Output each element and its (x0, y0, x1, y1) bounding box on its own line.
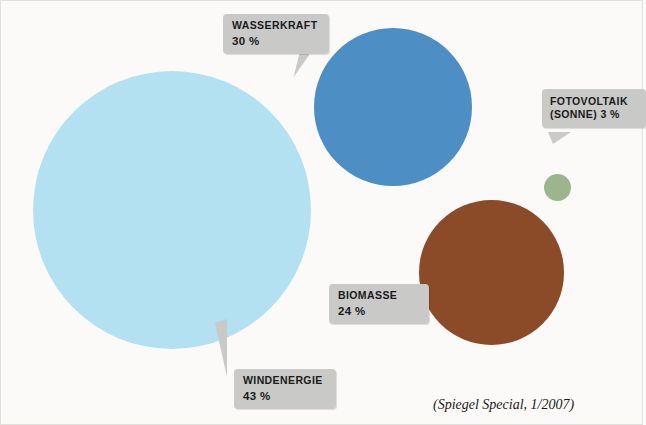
callout-label-fotovoltaik-sonne: (SONNE) (550, 108, 597, 120)
callout-value-windenergie: 43 % (243, 389, 327, 403)
callout-windenergie: WINDENERGIE 43 % (234, 369, 336, 409)
bubble-fotovoltaik (544, 174, 571, 201)
callout-label-fotovoltaik-line2: (SONNE) 3 % (550, 108, 638, 121)
callout-value-fotovoltaik: 3 % (600, 108, 619, 120)
callout-value-biomasse: 24 % (338, 304, 420, 318)
bubble-wasserkraft (314, 28, 472, 186)
callout-biomasse: BIOMASSE 24 % (329, 284, 429, 324)
callout-label-biomasse: BIOMASSE (338, 289, 420, 302)
callout-fotovoltaik: FOTOVOLTAIK (SONNE) 3 % (542, 89, 646, 128)
callout-label-fotovoltaik-line1: FOTOVOLTAIK (550, 95, 638, 108)
source-note: (Spiegel Special, 1/2007) (433, 397, 574, 413)
bubble-windenergie (33, 71, 311, 349)
callout-label-wasserkraft: WASSERKRAFT (232, 19, 320, 32)
callout-tail-windenergie (215, 319, 227, 377)
callout-wasserkraft: WASSERKRAFT 30 % (223, 14, 329, 54)
callout-tail-fotovoltaik (548, 132, 571, 144)
bubble-biomasse (419, 200, 564, 345)
callout-value-wasserkraft: 30 % (232, 34, 320, 48)
callout-label-windenergie: WINDENERGIE (243, 374, 327, 387)
